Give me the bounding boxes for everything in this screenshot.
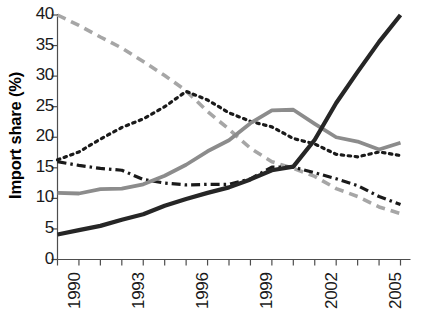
y-tick-label: 5 <box>18 218 54 238</box>
series-black-dashdot <box>58 162 401 205</box>
x-tick-label: 1993 <box>129 272 149 309</box>
y-tick-label: 35 <box>18 35 54 55</box>
series-black-solid <box>58 15 401 234</box>
y-tick-label: 25 <box>18 96 54 116</box>
series-group <box>58 15 401 234</box>
y-tick-label: 10 <box>18 187 54 207</box>
x-tick-label: 1996 <box>193 272 213 309</box>
series-gray-solid <box>58 110 401 194</box>
y-tick-label: 15 <box>18 157 54 177</box>
y-tick-label: 0 <box>18 249 54 269</box>
chart-figure: Import share (%) 0510152025303540 199019… <box>0 0 427 316</box>
x-tick-label: 1990 <box>65 272 85 309</box>
y-tick-label: 20 <box>18 126 54 146</box>
x-tick-label: 2005 <box>386 272 406 309</box>
series-black-dotted <box>58 91 401 159</box>
x-tick-label: 2002 <box>322 272 342 309</box>
chart-plot-area <box>0 0 427 316</box>
y-tick-label: 40 <box>18 4 54 24</box>
x-tick-label: 1999 <box>257 272 277 309</box>
y-tick-label: 30 <box>18 65 54 85</box>
